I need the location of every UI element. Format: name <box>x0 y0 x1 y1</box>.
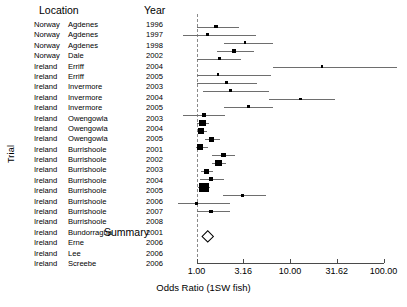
effect-size-marker <box>244 41 247 44</box>
list-item: IrelandBurrishoole2007 <box>34 207 184 217</box>
confidence-interval-line <box>197 211 231 212</box>
row-year: 2006 <box>146 249 163 258</box>
row-country: Ireland <box>34 145 57 154</box>
row-year: 2006 <box>146 238 163 247</box>
list-item: IrelandInvermore2003 <box>34 82 184 92</box>
row-place: Owengowla <box>68 134 108 143</box>
row-country: Ireland <box>34 114 57 123</box>
x-axis-tick <box>337 259 338 263</box>
list-item: IrelandScreebe2006 <box>34 259 184 269</box>
x-axis-tick <box>243 259 244 263</box>
row-year: 2004 <box>146 62 163 71</box>
confidence-interval-line <box>183 35 256 36</box>
row-place: Burrishoole <box>68 207 106 216</box>
list-item: IrelandBurrishoole2006 <box>34 197 184 207</box>
row-place: Screebe <box>68 259 96 268</box>
effect-size-marker <box>204 169 209 174</box>
list-item: NorwayAgdenes1996 <box>34 20 184 30</box>
confidence-interval-line <box>224 107 274 108</box>
row-place: Invermore <box>68 93 102 102</box>
list-item: IrelandOwengowla2003 <box>34 114 184 124</box>
row-country: Ireland <box>34 238 57 247</box>
list-item: IrelandErriff2005 <box>34 72 184 82</box>
row-year: 2002 <box>146 51 163 60</box>
effect-size-marker <box>209 210 213 214</box>
confidence-interval-line <box>205 139 221 140</box>
confidence-interval-line <box>197 59 242 60</box>
row-place: Burrishoole <box>68 145 106 154</box>
row-place: Lee <box>68 249 81 258</box>
x-axis-tick-label: 1.00 <box>188 266 206 276</box>
row-country: Ireland <box>34 259 57 268</box>
list-item: IrelandBurrishoole2001 <box>34 145 184 155</box>
confidence-interval-line <box>196 147 208 148</box>
confidence-interval-line <box>198 187 210 188</box>
x-axis-label: Odds Ratio (1SW fish) <box>0 282 407 293</box>
row-year: 2003 <box>146 114 163 123</box>
effect-size-marker <box>241 194 244 197</box>
row-year: 2005 <box>146 72 163 81</box>
forest-plot: Trial Location Year NorwayAgdenes1996Nor… <box>0 0 407 307</box>
confidence-interval-line <box>212 155 236 156</box>
effect-size-marker <box>202 113 205 116</box>
row-year: 2006 <box>146 197 163 206</box>
header-year: Year <box>144 4 165 16</box>
list-item: NorwayAgdenes1997 <box>34 30 184 40</box>
list-item: IrelandInvermore2005 <box>34 103 184 113</box>
effect-size-marker <box>215 160 221 166</box>
row-year: 1996 <box>146 20 163 29</box>
row-country: Ireland <box>34 103 57 112</box>
row-place: Burrishoole <box>68 197 106 206</box>
row-place: Burrishoole <box>68 155 106 164</box>
confidence-interval-line <box>197 131 208 132</box>
row-year: 2004 <box>146 176 163 185</box>
row-year: 2004 <box>146 93 163 102</box>
row-place: Burrishoole <box>68 176 106 185</box>
x-axis-tick-label: 100.00 <box>370 266 398 276</box>
row-place: Burrishoole <box>68 186 106 195</box>
x-axis-tick-label: 31.62 <box>325 266 348 276</box>
row-place: Owengowla <box>68 114 108 123</box>
x-axis-tick <box>197 259 198 263</box>
confidence-interval-line <box>197 27 240 28</box>
row-country: Ireland <box>34 82 57 91</box>
confidence-interval-line <box>178 203 230 204</box>
row-year: 2004 <box>146 124 163 133</box>
header-location: Location <box>39 4 79 16</box>
row-year: 2003 <box>146 82 163 91</box>
confidence-interval-line <box>197 123 208 124</box>
row-place: Erne <box>68 238 84 247</box>
list-item: IrelandBurrishoole2003 <box>34 165 184 175</box>
list-item: IrelandBurrishoole2004 <box>34 176 184 186</box>
summary-label: Summary <box>104 226 149 238</box>
x-axis-tick-label: 3.16 <box>234 266 252 276</box>
row-country: Ireland <box>34 62 57 71</box>
row-place: Erriff <box>68 72 84 81</box>
row-country: Ireland <box>34 124 57 133</box>
confidence-interval-line <box>223 195 267 196</box>
row-country: Ireland <box>34 165 57 174</box>
row-year: 1997 <box>146 30 163 39</box>
list-item: IrelandOwengowla2005 <box>34 134 184 144</box>
effect-size-marker <box>199 120 206 127</box>
row-country: Ireland <box>34 207 57 216</box>
x-axis-tick <box>290 259 291 263</box>
effect-size-marker <box>247 105 250 108</box>
confidence-interval-line <box>201 171 213 172</box>
row-place: Burrishoole <box>68 217 106 226</box>
null-reference-line <box>197 14 198 262</box>
effect-size-marker <box>206 33 209 36</box>
row-year: 2005 <box>146 134 163 143</box>
list-item: IrelandLee2006 <box>34 249 184 259</box>
list-item: IrelandBurrishoole2002 <box>34 155 184 165</box>
effect-size-marker <box>218 57 221 60</box>
confidence-interval-line <box>203 91 269 92</box>
row-year: 2002 <box>146 155 163 164</box>
label-table-header: Location Year <box>34 4 184 20</box>
row-country: Ireland <box>34 217 57 226</box>
x-axis-tick <box>384 259 385 263</box>
summary-diamond <box>201 230 214 243</box>
confidence-interval-line <box>212 163 226 164</box>
effect-size-marker <box>299 98 302 101</box>
effect-size-marker <box>214 25 217 28</box>
